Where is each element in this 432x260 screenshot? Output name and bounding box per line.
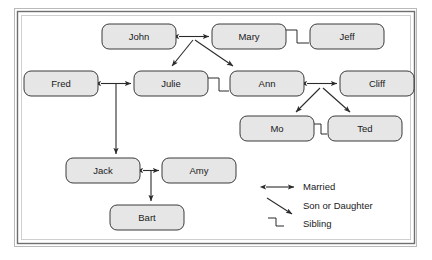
node-cliff[interactable]: Cliff — [340, 71, 414, 96]
edge-sibling-mary-jeff — [286, 30, 309, 43]
node-label-jack: Jack — [93, 165, 113, 176]
node-label-ted: Ted — [357, 123, 372, 134]
node-jack[interactable]: Jack — [66, 158, 140, 183]
legend-label-married: Married — [303, 181, 335, 192]
family-tree-diagram: John Mary Jeff Fred Julie Ann — [0, 0, 432, 260]
node-label-cliff: Cliff — [369, 78, 386, 89]
legend-item-married: Married — [266, 181, 335, 192]
node-label-julie: Julie — [161, 78, 181, 89]
node-julie[interactable]: Julie — [134, 71, 208, 96]
node-mo[interactable]: Mo — [240, 116, 314, 141]
node-amy[interactable]: Amy — [162, 158, 236, 183]
legend-item-sibling: Sibling — [268, 218, 332, 229]
node-label-bart: Bart — [138, 212, 156, 223]
node-label-ann: Ann — [259, 78, 276, 89]
legend-label-sibling: Sibling — [303, 218, 332, 229]
legend-item-son-or-daughter: Son or Daughter — [267, 198, 373, 214]
edge-sibling-julie-ann — [208, 78, 229, 91]
node-label-amy: Amy — [190, 165, 209, 176]
node-ann[interactable]: Ann — [230, 71, 304, 96]
node-label-jeff: Jeff — [339, 31, 355, 42]
node-mary[interactable]: Mary — [212, 24, 286, 49]
node-label-fred: Fred — [51, 78, 71, 89]
node-ted[interactable]: Ted — [328, 116, 402, 141]
node-fred[interactable]: Fred — [24, 71, 98, 96]
diagonal-arrow-icon — [267, 198, 292, 214]
step-bracket-icon — [268, 218, 284, 226]
node-label-mary: Mary — [238, 31, 259, 42]
node-label-john: John — [129, 31, 150, 42]
node-label-mo: Mo — [270, 123, 283, 134]
node-john[interactable]: John — [102, 24, 176, 49]
node-bart[interactable]: Bart — [110, 205, 184, 230]
legend-label-son-or-daughter: Son or Daughter — [303, 200, 373, 211]
edge-sibling-mo-ted — [314, 124, 327, 134]
legend: Married Son or Daughter Sibling — [266, 181, 373, 229]
node-jeff[interactable]: Jeff — [310, 24, 384, 49]
